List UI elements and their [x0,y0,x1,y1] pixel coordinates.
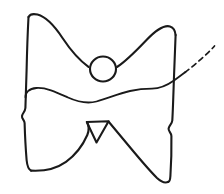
butterfly-sketch-svg: Hand-drawn butterfly outline sketch Free… [0,0,224,194]
sketch-canvas: Hand-drawn butterfly outline sketch Free… [0,0,224,194]
